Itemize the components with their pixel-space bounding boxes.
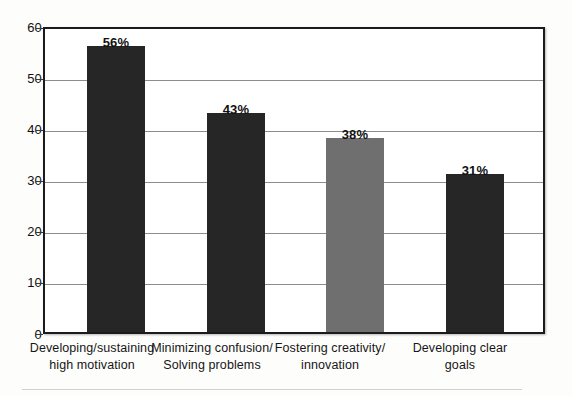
bar-value-label-1: 56% [87,36,145,49]
category-label-4-line1: Developing clear [413,341,508,355]
category-label-1-line2: high motivation [23,357,161,374]
y-tick-mark-50 [36,79,43,80]
y-tick-mark-30 [36,181,43,182]
bar-chart: 60 50 40 30 20 10 0 56% 43% [0,0,572,396]
bar-minimizing-confusion-solving-problems[interactable] [207,113,265,332]
category-label-2-line1: Minimizing confusion/ [151,341,273,355]
category-label-4: Developing clear goals [396,340,524,374]
plot-area: 56% 43% 38% 31% [43,27,545,334]
bar-value-label-4: 31% [446,164,504,177]
category-label-2: Minimizing confusion/ Solving problems [142,340,282,374]
category-label-3-line2: innovation [264,357,396,374]
y-tick-mark-60 [36,28,43,29]
y-tick-mark-10 [36,283,43,284]
category-label-1: Developing/sustaining high motivation [23,340,161,374]
bar-value-label-2: 43% [207,103,265,116]
category-label-3-line1: Fostering creativity/ [275,341,385,355]
category-label-1-line1: Developing/sustaining [30,341,154,355]
bar-developing-sustaining-high-motivation[interactable] [87,46,145,332]
bar-fostering-creativity-innovation[interactable] [326,138,384,332]
category-label-4-line2: goals [396,357,524,374]
scan-artifact-line [22,389,522,390]
y-tick-mark-40 [36,130,43,131]
y-tick-mark-0 [36,334,43,335]
y-tick-mark-20 [36,232,43,233]
bar-developing-clear-goals[interactable] [446,174,504,332]
category-label-2-line2: Solving problems [142,357,282,374]
bar-value-label-3: 38% [326,128,384,141]
category-label-3: Fostering creativity/ innovation [264,340,396,374]
